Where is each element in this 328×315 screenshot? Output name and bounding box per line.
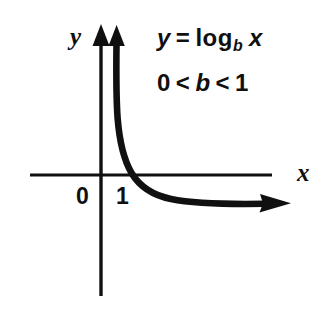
condition-lower-bound: 0 <box>157 69 171 96</box>
condition-upper-bound: 1 <box>235 69 249 96</box>
curve-right-arrowhead <box>260 194 292 213</box>
y-axis-label: y <box>70 24 81 49</box>
curve-up-arrowhead <box>109 25 125 46</box>
equation-base-subscript: b <box>233 37 243 54</box>
equation-log-text: log <box>195 24 233 51</box>
origin-tick-label: 0 <box>76 185 89 208</box>
equation-annotation: y=logbx <box>157 26 263 54</box>
condition-less-than-1: < <box>176 69 191 96</box>
condition-less-than-2: < <box>216 69 231 96</box>
y-axis-arrowhead <box>93 24 110 46</box>
base-condition-annotation: 0<b<1 <box>157 71 249 95</box>
equation-equals-sign: = <box>176 24 191 51</box>
logarithm-graph-figure: y x 0 1 y=logbx 0<b<1 <box>0 0 328 315</box>
equation-y-term: y <box>157 24 171 51</box>
log-curve <box>116 44 264 204</box>
x-axis-label: x <box>297 160 310 185</box>
condition-base-variable: b <box>195 69 210 96</box>
x-intercept-tick-label: 1 <box>116 185 129 208</box>
equation-argument-term: x <box>249 24 263 51</box>
